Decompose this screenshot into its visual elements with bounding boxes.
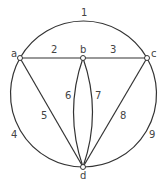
node-d bbox=[81, 165, 86, 170]
edge-label-8: 8 bbox=[120, 110, 126, 121]
node-b bbox=[81, 56, 86, 61]
edge-label-6: 6 bbox=[65, 90, 71, 101]
edge-label-1: 1 bbox=[81, 7, 87, 18]
node-label-d: d bbox=[80, 170, 86, 180]
node-a bbox=[18, 56, 23, 61]
edge-label-3: 3 bbox=[110, 44, 116, 55]
edge-6 bbox=[74, 58, 84, 167]
edge-label-5: 5 bbox=[41, 110, 47, 121]
edge-label-9: 9 bbox=[149, 129, 155, 140]
node-label-c: c bbox=[151, 48, 157, 59]
edge-label-4: 4 bbox=[11, 129, 17, 140]
node-label-b: b bbox=[80, 44, 86, 55]
edge-label-7: 7 bbox=[95, 90, 101, 101]
node-label-a: a bbox=[11, 48, 17, 59]
edge-7 bbox=[83, 58, 93, 167]
graph-diagram: a b c d 1 2 3 4 5 6 7 8 9 bbox=[0, 0, 165, 180]
node-c bbox=[145, 56, 150, 61]
edge-label-2: 2 bbox=[51, 44, 57, 55]
